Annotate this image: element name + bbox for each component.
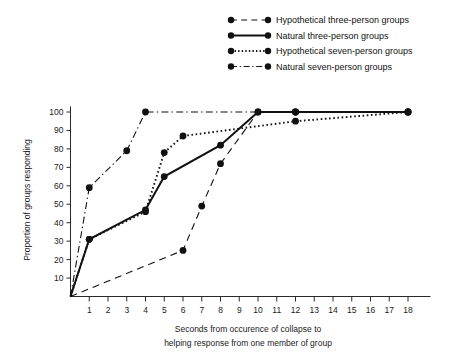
legend-marker-right	[265, 63, 271, 69]
data-point	[405, 109, 412, 116]
legend-marker-right	[265, 32, 271, 38]
legend-marker-right	[265, 17, 271, 23]
y-tick-label: 10	[54, 273, 64, 283]
x-tick-label: 11	[272, 305, 281, 315]
legend-marker-right	[265, 48, 271, 54]
legend-item-1: Natural three-person groups	[228, 31, 389, 41]
legend-item-3: Natural seven-person groups	[228, 62, 393, 72]
x-tick-label: 12	[291, 305, 301, 315]
y-tick-label: 40	[54, 218, 64, 228]
chart-axes: 1020304050607080901001234567891011121314…	[49, 106, 430, 314]
legend-item-2: Hypothetical seven-person groups	[228, 46, 413, 56]
data-point	[123, 147, 130, 154]
x-axis-title-line2: helping response from one member of grou…	[164, 338, 332, 348]
x-tick-label: 15	[347, 305, 357, 315]
x-tick-label: 13	[310, 305, 320, 315]
x-tick-label: 2	[106, 305, 111, 315]
legend-marker-left	[228, 48, 234, 54]
data-point	[161, 173, 168, 180]
series-line-2	[71, 112, 409, 297]
series-line-0	[71, 112, 409, 297]
x-tick-label: 7	[199, 305, 204, 315]
y-tick-label: 60	[54, 181, 64, 191]
data-point	[142, 208, 149, 215]
y-axis-title: Proportion of groups responding	[22, 139, 32, 261]
x-tick-label: 16	[366, 305, 376, 315]
y-tick-label: 30	[54, 236, 64, 246]
y-tick-label: 20	[54, 255, 64, 265]
data-point	[217, 142, 224, 149]
line-chart: Hypothetical three-person groupsNatural …	[0, 0, 470, 361]
data-point	[292, 109, 299, 116]
x-tick-label: 8	[218, 305, 223, 315]
x-tick-label: 14	[328, 305, 338, 315]
x-tick-label: 6	[181, 305, 186, 315]
data-point	[198, 203, 205, 210]
x-tick-label: 3	[124, 305, 129, 315]
x-tick-label: 5	[162, 305, 167, 315]
y-tick-label: 90	[54, 125, 64, 135]
x-tick-label: 18	[403, 305, 413, 315]
data-point	[86, 184, 93, 191]
y-tick-label: 100	[49, 107, 63, 117]
x-tick-label: 9	[237, 305, 242, 315]
y-tick-label: 50	[54, 199, 64, 209]
chart-legend: Hypothetical three-person groupsNatural …	[228, 15, 413, 71]
legend-marker-left	[228, 17, 234, 23]
x-tick-label: 17	[385, 305, 395, 315]
x-axis-title-line1: Seconds from occurence of collapse to	[175, 324, 322, 334]
data-point	[161, 149, 168, 156]
y-tick-label: 80	[54, 144, 64, 154]
data-point	[180, 247, 187, 254]
chart-container: Hypothetical three-person groupsNatural …	[0, 0, 470, 361]
legend-item-0: Hypothetical three-person groups	[228, 15, 410, 25]
data-point	[180, 133, 187, 140]
x-tick-label: 1	[87, 305, 92, 315]
legend-label: Hypothetical seven-person groups	[276, 46, 413, 56]
series-line-1	[71, 112, 409, 297]
y-tick-label: 70	[54, 162, 64, 172]
data-point	[217, 160, 224, 167]
legend-label: Hypothetical three-person groups	[276, 15, 410, 25]
legend-label: Natural seven-person groups	[276, 62, 393, 72]
data-point	[292, 118, 299, 125]
data-point	[142, 109, 149, 116]
legend-label: Natural three-person groups	[276, 31, 389, 41]
legend-marker-left	[228, 63, 234, 69]
series-line-3	[71, 112, 409, 297]
chart-series	[71, 109, 412, 297]
x-tick-label: 4	[143, 305, 148, 315]
x-tick-label: 10	[253, 305, 263, 315]
legend-marker-left	[228, 32, 234, 38]
data-point	[86, 236, 93, 243]
